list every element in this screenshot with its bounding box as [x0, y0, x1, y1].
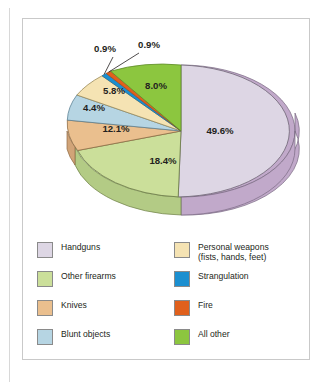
- pie-label-strangulation: 0.9%: [94, 43, 116, 54]
- legend-swatch-all-other: [174, 329, 190, 345]
- legend-swatch-blunt-objects: [37, 329, 53, 345]
- legend-label-other-firearms: Other firearms: [61, 270, 116, 282]
- pie-label-personal-weapons: 5.8%: [103, 85, 125, 96]
- legend-label-all-other: All other: [198, 328, 230, 340]
- legend-item-other-firearms[interactable]: Other firearms: [37, 270, 162, 299]
- legend-swatch-fire: [174, 300, 190, 316]
- legend-item-personal-weapons[interactable]: Personal weapons (fists, hands, feet): [174, 241, 299, 270]
- legend-item-strangulation[interactable]: Strangulation: [174, 270, 299, 299]
- legend-item-fire[interactable]: Fire: [174, 299, 299, 328]
- legend-column-right: Personal weapons (fists, hands, feet) St…: [174, 241, 299, 357]
- legend-label-fire: Fire: [198, 299, 213, 311]
- pie-label-fire: 0.9%: [138, 39, 160, 50]
- legend-item-blunt-objects[interactable]: Blunt objects: [37, 328, 162, 357]
- pie-label-blunt-objects: 4.4%: [83, 102, 105, 113]
- pie-label-handguns: 49.6%: [206, 125, 234, 136]
- legend-label-handguns: Handguns: [61, 241, 100, 253]
- legend-column-left: Handguns Other firearms Knives Blunt obj…: [37, 241, 162, 357]
- legend-item-handguns[interactable]: Handguns: [37, 241, 162, 270]
- legend-swatch-knives: [37, 300, 53, 316]
- legend-swatch-handguns: [37, 242, 53, 258]
- chart-legend: Handguns Other firearms Knives Blunt obj…: [37, 241, 299, 357]
- legend-label-personal-weapons: Personal weapons (fists, hands, feet): [198, 241, 269, 262]
- pie-label-knives: 12.1%: [102, 123, 130, 134]
- legend-label-strangulation: Strangulation: [198, 270, 249, 282]
- legend-label-blunt-objects: Blunt objects: [61, 328, 110, 340]
- page-edge-line: [9, 8, 10, 382]
- figure-frame: 49.6% 18.4% 12.1% 4.4% 5.8% 0.9% 0.9% 8.…: [22, 18, 310, 360]
- pie-chart-area: 49.6% 18.4% 12.1% 4.4% 5.8% 0.9% 0.9% 8.…: [23, 19, 311, 237]
- legend-swatch-strangulation: [174, 271, 190, 287]
- legend-item-all-other[interactable]: All other: [174, 328, 299, 357]
- pie-chart-svg: 49.6% 18.4% 12.1% 4.4% 5.8% 0.9% 0.9% 8.…: [23, 19, 311, 237]
- pie-label-all-other: 8.0%: [145, 80, 167, 91]
- legend-item-knives[interactable]: Knives: [37, 299, 162, 328]
- legend-swatch-other-firearms: [37, 271, 53, 287]
- pie-label-other-firearms: 18.4%: [149, 155, 177, 166]
- legend-label-knives: Knives: [61, 299, 87, 311]
- legend-swatch-personal-weapons: [174, 242, 190, 258]
